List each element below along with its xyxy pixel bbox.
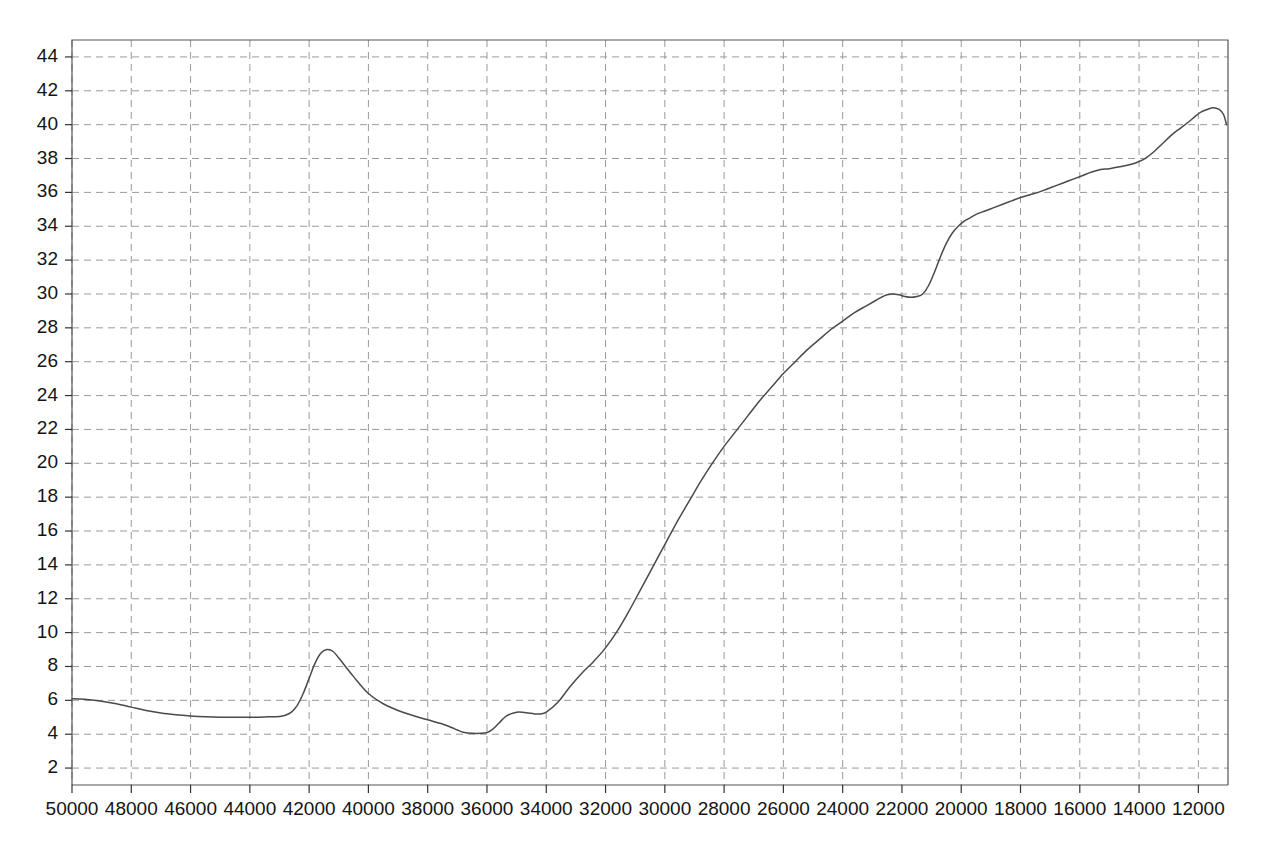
y-tick-label: 18 [37,485,58,506]
x-tick-label: 44000 [223,798,276,819]
x-tick-label: 18000 [994,798,1047,819]
y-tick-label: 30 [37,282,58,303]
y-tick-label: 12 [37,587,58,608]
y-tick-label: 4 [47,722,58,743]
y-tick-label: 34 [37,214,59,235]
x-tick-label: 22000 [876,798,929,819]
line-chart: 2468101214161820222426283032343638404244… [0,0,1270,857]
x-tick-label: 36000 [461,798,514,819]
x-tick-label: 42000 [283,798,336,819]
x-tick-label: 38000 [401,798,454,819]
y-tick-label: 26 [37,350,58,371]
data-series-line [72,108,1227,734]
x-tick-label: 30000 [638,798,691,819]
y-tick-label: 28 [37,316,58,337]
y-axis-tick-labels: 2468101214161820222426283032343638404244 [37,45,59,777]
x-tick-label: 32000 [579,798,632,819]
y-tick-label: 8 [47,654,58,675]
y-tick-label: 24 [37,384,59,405]
y-tick-label: 36 [37,180,58,201]
y-tick-label: 6 [47,688,58,709]
x-tick-label: 24000 [816,798,869,819]
plot-frame [72,40,1228,785]
axes-frame [72,40,1228,785]
y-tick-label: 20 [37,451,58,472]
y-tick-label: 38 [37,147,58,168]
x-tick-label: 26000 [757,798,810,819]
y-tick-label: 40 [37,113,58,134]
x-tick-label: 20000 [935,798,988,819]
y-tick-label: 14 [37,553,59,574]
y-tick-label: 22 [37,417,58,438]
x-tick-label: 34000 [520,798,573,819]
x-axis-tick-labels: 5000048000460004400042000400003800036000… [46,798,1225,819]
x-tick-label: 14000 [1113,798,1166,819]
chart-container: 2468101214161820222426283032343638404244… [0,0,1270,857]
x-tick-label: 46000 [164,798,217,819]
x-tick-label: 50000 [46,798,99,819]
x-tick-label: 16000 [1053,798,1106,819]
y-tick-label: 2 [47,756,58,777]
x-tick-label: 40000 [342,798,395,819]
y-tick-label: 44 [37,45,59,66]
x-tick-label: 12000 [1172,798,1225,819]
y-tick-label: 32 [37,248,58,269]
y-tick-label: 10 [37,621,58,642]
data-series-layer [72,108,1227,734]
x-tick-label: 28000 [698,798,751,819]
axis-ticks [65,57,1198,793]
y-tick-label: 42 [37,79,58,100]
grid-lines [72,40,1228,785]
y-tick-label: 16 [37,519,58,540]
x-tick-label: 48000 [105,798,158,819]
